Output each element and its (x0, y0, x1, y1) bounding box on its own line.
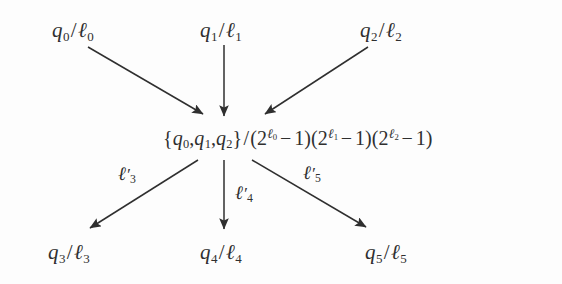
factor-1-exponent-base: ℓ (328, 126, 334, 141)
factor-1-exponent: ℓ1 (328, 126, 338, 141)
q5-denominator-subscript: 5 (400, 251, 407, 266)
arrow-q0-to-center (88, 47, 203, 114)
edge-label-l5: ℓ′5 (303, 162, 321, 186)
factor-0-exponent-base: ℓ (267, 126, 273, 141)
factor-1-constant: 1 (355, 127, 365, 149)
factor-0-constant: 1 (294, 127, 304, 149)
q1-denominator-subscript: 1 (235, 29, 242, 44)
factor-0-operator: − (277, 127, 294, 149)
node-q5: q5/ℓ5 (365, 240, 407, 267)
q5-slash: / (382, 240, 391, 264)
arrow-q2-to-center (265, 47, 368, 114)
q5-numerator: q (365, 240, 376, 264)
edge-label-l3-subscript: 3 (130, 173, 136, 186)
node-q3: q3/ℓ3 (48, 240, 90, 267)
arrow-center-to-q3 (90, 160, 198, 228)
q2-denominator-subscript: 2 (395, 29, 402, 44)
factor-2-operator: − (399, 127, 416, 149)
factor-2-constant: 1 (416, 127, 426, 149)
edge-label-l4-base: ℓ (235, 182, 243, 203)
factor-2-open-paren: ( (372, 127, 379, 149)
edge-label-l5-subscript: 5 (315, 172, 321, 185)
q4-denominator: ℓ (226, 240, 235, 264)
q3-denominator: ℓ (74, 240, 83, 264)
q3-slash: / (65, 240, 74, 264)
q1-denominator: ℓ (226, 18, 235, 42)
set-member-1: q (194, 127, 204, 149)
edge-label-l3: ℓ′3 (118, 163, 136, 187)
factor-1-operator: − (338, 127, 355, 149)
set-close-brace: } (233, 127, 243, 149)
q0-slash: / (69, 18, 78, 42)
edge-label-l4-subscript: 4 (247, 192, 253, 205)
q2-denominator: ℓ (386, 18, 395, 42)
q5-denominator: ℓ (391, 240, 400, 264)
factor-1-close-paren: ) (365, 127, 372, 149)
node-q4: q4/ℓ4 (200, 240, 242, 267)
q2-numerator: q (360, 18, 371, 42)
q0-numerator: q (52, 18, 63, 42)
factor-2-base: 2 (379, 127, 389, 149)
edge-label-l4: ℓ′4 (235, 182, 253, 206)
node-q0: q0/ℓ0 (52, 18, 94, 45)
edge-label-l3-base: ℓ (118, 163, 126, 184)
factor-1-base: 2 (318, 127, 328, 149)
q3-denominator-subscript: 3 (83, 251, 90, 266)
factor-0-base: 2 (257, 127, 267, 149)
factor-1-open-paren: ( (311, 127, 318, 149)
q0-denominator: ℓ (78, 18, 87, 42)
factor-2-exponent: ℓ2 (389, 126, 399, 141)
set-open-brace: { (163, 127, 173, 149)
factor-0-exponent: ℓ0 (267, 126, 277, 141)
q2-slash: / (377, 18, 386, 42)
math-flow-diagram: q0/ℓ0 q1/ℓ1 q2/ℓ2 {q0,q1,q2}/(2ℓ0−1)(2ℓ1… (0, 0, 562, 284)
q4-slash: / (217, 240, 226, 264)
q0-denominator-subscript: 0 (87, 29, 94, 44)
node-center-expression: {q0,q1,q2}/(2ℓ0−1)(2ℓ1−1)(2ℓ2−1) (163, 126, 433, 152)
node-q1: q1/ℓ1 (200, 18, 242, 45)
node-q2: q2/ℓ2 (360, 18, 402, 45)
edge-label-l5-base: ℓ (303, 162, 311, 183)
q3-numerator: q (48, 240, 59, 264)
set-member-2: q (216, 127, 226, 149)
q4-denominator-subscript: 4 (235, 251, 242, 266)
factor-2-close-paren: ) (426, 127, 433, 149)
set-member-0: q (173, 127, 183, 149)
q4-numerator: q (200, 240, 211, 264)
q1-numerator: q (200, 18, 211, 42)
q1-slash: / (217, 18, 226, 42)
